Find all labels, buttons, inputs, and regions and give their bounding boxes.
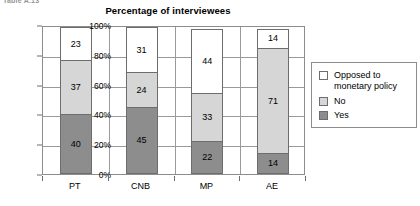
gridline-vertical — [175, 27, 176, 174]
bar-segment[interactable]: 14 — [257, 29, 289, 50]
legend-item[interactable]: Yes — [319, 110, 349, 121]
gridline-vertical — [109, 27, 110, 174]
x-axis-label-mp: MP — [200, 181, 214, 191]
y-axis-label: 40% — [94, 110, 111, 120]
x-axis-tick — [305, 176, 306, 181]
bar-value-label: 24 — [137, 86, 147, 95]
bar-segment[interactable]: 40 — [60, 114, 92, 174]
bar-value-label: 44 — [202, 57, 212, 66]
y-axis-tick — [37, 85, 42, 86]
bar-value-label: 14 — [268, 34, 278, 43]
figure: Table A.13 Percentage of interviewees 23… — [0, 0, 420, 206]
legend-label: Yes — [334, 110, 349, 121]
y-axis-label: 0% — [99, 170, 111, 180]
bar-value-label: 14 — [268, 159, 278, 168]
bar-value-label: 71 — [268, 97, 278, 106]
y-axis-tick — [37, 55, 42, 56]
bar-segment[interactable]: 71 — [257, 48, 289, 154]
legend-item[interactable]: Opposed to monetary policy — [319, 70, 397, 91]
legend-swatch — [319, 111, 328, 120]
bar-stack[interactable]: 233740 — [60, 27, 92, 174]
bar-stack[interactable]: 312445 — [126, 27, 158, 174]
legend-label: Opposed to monetary policy — [334, 70, 397, 91]
bar-segment[interactable]: 24 — [126, 72, 158, 108]
x-axis-tick — [174, 176, 175, 181]
chart-title: Percentage of interviewees — [0, 5, 336, 16]
caption-fragment: Table A.13 — [3, 0, 39, 4]
y-axis-label: 60% — [94, 81, 111, 91]
bar-value-label: 22 — [202, 153, 212, 162]
bar-segment[interactable]: 37 — [60, 60, 92, 115]
bar-value-label: 40 — [71, 140, 81, 149]
x-axis-tick — [108, 176, 109, 181]
bar-value-label: 45 — [137, 136, 147, 145]
bar-value-label: 33 — [202, 113, 212, 122]
plot-area: 233740312445443322147114 — [42, 26, 305, 175]
bar-value-label: 31 — [137, 46, 147, 55]
legend-swatch — [319, 97, 328, 106]
y-axis-tick — [37, 26, 42, 27]
x-axis-label-pt: PT — [69, 181, 81, 191]
legend-item[interactable]: No — [319, 96, 346, 107]
x-axis-tick — [239, 176, 240, 181]
bar-segment[interactable]: 22 — [191, 141, 223, 174]
gridline-vertical — [240, 27, 241, 174]
x-axis-label-cnb: CNB — [131, 181, 150, 191]
bar-stack[interactable]: 147114 — [257, 29, 289, 175]
bar-value-label: 37 — [71, 83, 81, 92]
legend-label: No — [334, 96, 346, 107]
y-axis-tick — [37, 145, 42, 146]
y-axis-label: 80% — [94, 51, 111, 61]
legend-swatch — [319, 71, 328, 80]
bar-segment[interactable]: 23 — [60, 27, 92, 61]
bar-segment[interactable]: 33 — [191, 93, 223, 142]
bar-segment[interactable]: 44 — [191, 29, 223, 95]
y-axis-label: 20% — [94, 140, 111, 150]
bar-segment[interactable]: 14 — [257, 153, 289, 174]
x-axis-tick — [42, 176, 43, 181]
chart-legend: Opposed to monetary policyNoYes — [311, 62, 417, 128]
y-axis-tick — [37, 115, 42, 116]
y-axis-label: 100% — [89, 21, 111, 31]
bar-stack[interactable]: 443322 — [191, 29, 223, 174]
bar-value-label: 23 — [71, 40, 81, 49]
bar-segment[interactable]: 45 — [126, 107, 158, 174]
bar-segment[interactable]: 31 — [126, 27, 158, 73]
x-axis-label-ae: AE — [266, 181, 278, 191]
